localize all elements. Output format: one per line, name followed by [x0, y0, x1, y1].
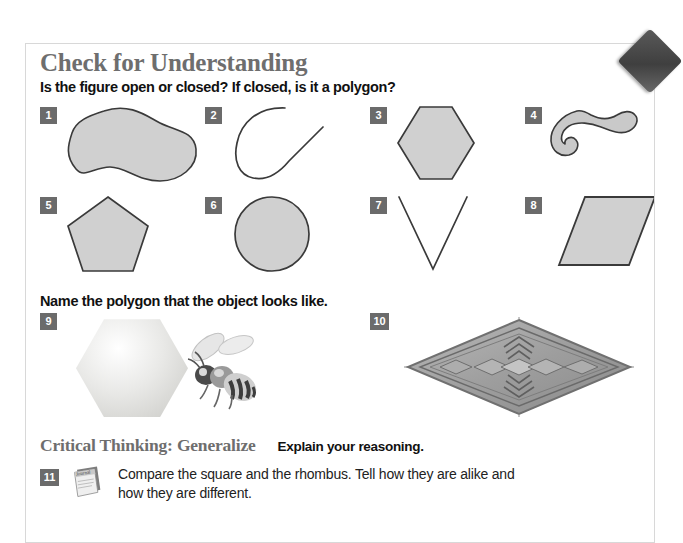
object-number-badge: 10	[370, 313, 389, 330]
object-number-badge: 9	[40, 313, 57, 330]
journal-icon: Journal	[72, 465, 102, 498]
hexagon-shape	[396, 105, 476, 185]
question-11[interactable]: 11 Journal Compare the square and the rh…	[40, 467, 644, 515]
pentagon-svg	[66, 195, 150, 273]
bee-icon	[180, 325, 260, 413]
circle-svg	[233, 195, 311, 273]
critical-thinking-header: Critical Thinking: Generalize Explain yo…	[40, 435, 644, 456]
page-title: Check for Understanding	[40, 50, 644, 76]
hook-shape	[547, 107, 643, 167]
figure-number-badge: 2	[205, 107, 222, 124]
figure-number-badge: 6	[205, 197, 222, 214]
instruction-open-or-closed: Is the figure open or closed? If closed,…	[40, 79, 644, 95]
circle-shape	[233, 195, 311, 277]
figure-number-badge: 8	[525, 197, 542, 214]
figure-number-badge: 3	[370, 107, 387, 124]
blob-svg	[64, 105, 200, 185]
figure-number-badge: 1	[40, 107, 57, 124]
blob-shape	[64, 105, 200, 189]
question-11-text: Compare the square and the rhombus. Tell…	[118, 465, 538, 503]
page-content: Check for Understanding Is the figure op…	[40, 50, 644, 515]
figure-number-badge: 7	[370, 197, 387, 214]
parallelogram-shape	[557, 195, 655, 271]
instruction-name-polygon: Name the polygon that the object looks l…	[40, 293, 644, 309]
open-curve-shape	[227, 105, 337, 193]
parallelogram-svg	[557, 195, 655, 267]
figure-number-badge: 5	[40, 197, 57, 214]
figure-number-badge: 4	[525, 107, 542, 124]
diamond-rug-icon	[404, 317, 634, 417]
textbook-page: Check for Understanding Is the figure op…	[25, 43, 655, 543]
figure-row-2: 5 6 7	[40, 195, 644, 287]
honeycomb-cell-icon	[76, 319, 188, 417]
open-curve-svg	[227, 105, 337, 189]
critical-thinking-prompt: Explain your reasoning.	[278, 439, 424, 454]
critical-thinking-label: Critical Thinking: Generalize	[40, 435, 256, 456]
question-number-badge: 11	[40, 469, 59, 486]
pentagon-shape	[66, 195, 150, 277]
object-row: 9	[40, 313, 644, 423]
figure-row-1: 1 2 3	[40, 105, 644, 193]
hook-svg	[547, 107, 643, 163]
vee-shape	[396, 195, 470, 277]
vee-svg	[396, 195, 470, 273]
hexagon-svg	[396, 105, 476, 181]
